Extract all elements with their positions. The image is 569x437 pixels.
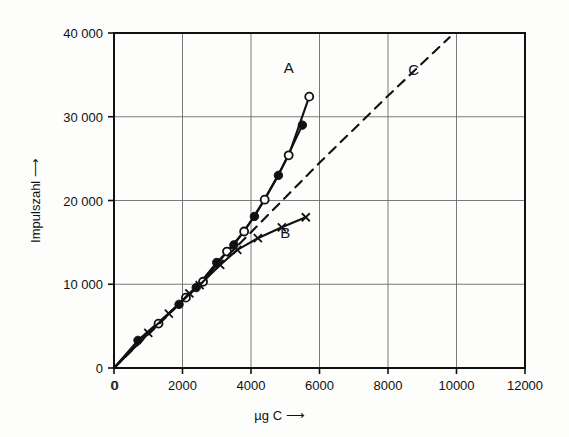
x-tick-label: 6000 (305, 378, 334, 393)
y-tick-label: 10 000 (63, 277, 103, 292)
x-tick-label: 4000 (237, 378, 266, 393)
y-tick-label: 40 000 (63, 26, 103, 41)
curve-label-B: B (280, 224, 290, 241)
chart-figure: 020004000600080001000012000 010 00020 00… (0, 0, 569, 437)
curve-label-A: A (284, 59, 294, 76)
data-point-open-circle (285, 151, 293, 159)
x-tick-label: 8000 (374, 378, 403, 393)
y-tick-label: 0 (96, 361, 103, 376)
y-axis-title: Impulszahl ⟶ (28, 158, 43, 243)
data-point-open-circle (305, 93, 313, 101)
x-tick-label: 12000 (507, 378, 543, 393)
x-axis-title: µg C ⟶ (254, 408, 304, 423)
data-point-open-circle (261, 196, 269, 204)
curve-label-C: C (408, 61, 419, 78)
origin-zero-text: 0 (111, 378, 118, 393)
x-tick-label: 2000 (168, 378, 197, 393)
data-point-open-circle (240, 227, 248, 235)
impulszahl-vs-ugc-chart: 020004000600080001000012000 010 00020 00… (0, 0, 569, 437)
y-tick-label: 20 000 (63, 194, 103, 209)
origin-zero-label: 0 (111, 378, 118, 393)
y-tick-label: 30 000 (63, 110, 103, 125)
x-tick-label: 10000 (438, 378, 474, 393)
